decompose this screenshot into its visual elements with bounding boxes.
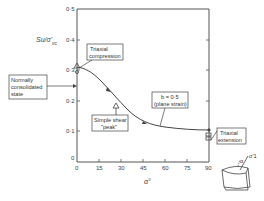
x-tick-label: 15 — [96, 165, 103, 171]
x-tick-label: 30 — [118, 165, 125, 171]
svg-text:"peak": "peak" — [101, 124, 117, 130]
inset-cube-icon: α σ'1 — [222, 153, 257, 190]
svg-text:Normally: Normally — [11, 77, 33, 83]
x-tick-label: 0 — [75, 165, 79, 171]
annotation-normally-consolidated: Normally consolidated state — [9, 75, 77, 99]
x-tick-label: 60 — [162, 165, 169, 171]
chart: 0·5 0·4 0·3 0·2 0·1 0 0 15 30 45 60 75 9… — [0, 0, 264, 201]
svg-text:compression: compression — [89, 53, 121, 59]
annotation-triaxial-compression: Triaxial compression — [79, 44, 123, 68]
svg-text:(plane strain): (plane strain) — [154, 101, 187, 107]
y-tick-label: 0·4 — [66, 37, 75, 43]
svg-text:extension: extension — [218, 137, 242, 143]
svg-text:Simple shear: Simple shear — [94, 117, 127, 123]
y-tick-label: 0·5 — [66, 6, 75, 12]
y-tick-label: 0 — [71, 155, 75, 161]
y-tick-label: 0·1 — [66, 128, 75, 134]
annotation-triaxial-extension: Triaxial extension — [211, 128, 246, 144]
x-axis-label: α° — [144, 178, 151, 185]
svg-text:σ'1: σ'1 — [249, 153, 257, 159]
svg-text:state: state — [11, 91, 23, 97]
x-tick-label: 75 — [184, 165, 191, 171]
svg-text:Triaxial: Triaxial — [220, 130, 238, 136]
annotation-plane-strain: b = 0·5 (plane strain) — [152, 92, 188, 126]
simple-shear-marker — [113, 103, 119, 115]
svg-text:α: α — [240, 158, 244, 164]
x-tick-label: 90 — [205, 165, 212, 171]
svg-text:consolidated: consolidated — [11, 84, 42, 90]
annotation-simple-shear: Simple shear "peak" — [92, 115, 128, 131]
x-tick-label: 45 — [140, 165, 147, 171]
svg-text:b = 0·5: b = 0·5 — [161, 94, 179, 100]
y-axis-label: Su/σ'vc — [36, 36, 58, 46]
svg-text:Triaxial: Triaxial — [90, 46, 108, 52]
y-tick-label: 0·2 — [66, 98, 75, 104]
